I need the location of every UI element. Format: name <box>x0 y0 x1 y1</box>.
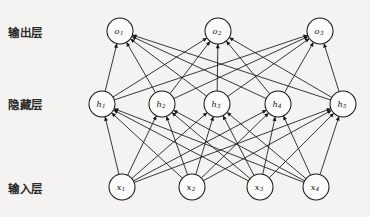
neural-network-figure: 输出层 隐藏层 输入层 o1o2o3h1h2h3h4h5x1x2x3x4 <box>0 0 370 217</box>
edge-h1-to-o2 <box>113 38 207 97</box>
node-o1: o1 <box>107 18 133 44</box>
edge-x4-to-h2 <box>173 110 304 181</box>
node-subscript-h2: 2 <box>161 103 166 109</box>
edge-arrowhead-icon <box>114 44 118 49</box>
node-x3: x3 <box>247 174 273 200</box>
edge-arrowhead-icon <box>130 39 135 43</box>
node-x4: x4 <box>303 174 329 200</box>
edge-h1-to-o3 <box>114 35 307 100</box>
edge-h4-to-o3 <box>284 42 313 92</box>
edge-h2-to-o1 <box>126 42 155 92</box>
node-x1: x1 <box>109 174 135 200</box>
edge-x4-to-h4 <box>283 116 310 175</box>
edge-arrowhead-icon <box>206 41 210 46</box>
edge-h3-to-o2 <box>217 44 218 91</box>
edge-arrowhead-icon <box>216 44 220 48</box>
edge-arrowhead-icon <box>336 116 340 121</box>
node-h5: h5 <box>330 91 356 117</box>
node-subscript-o1: 1 <box>120 30 124 36</box>
edge-h3-to-o3 <box>228 39 310 97</box>
edge-x3-to-h4 <box>263 117 275 175</box>
edge-arrowhead-icon <box>272 117 276 122</box>
node-o3: o3 <box>307 18 333 44</box>
edge-x3-to-h1 <box>114 110 249 181</box>
node-subscript-h3: 3 <box>217 103 221 109</box>
node-subscript-h4: 4 <box>277 103 282 109</box>
node-subscript-o3: 3 <box>320 30 324 36</box>
edge-h4-to-o1 <box>132 36 266 98</box>
edge-arrowhead-icon <box>323 43 327 48</box>
node-x2: x2 <box>179 174 205 200</box>
node-h4: h4 <box>265 91 291 117</box>
edge-h1-to-o1 <box>105 44 117 92</box>
edge-x1-to-h1 <box>105 117 119 175</box>
edge-arrowhead-icon <box>166 116 170 121</box>
edge-h5-to-o3 <box>324 43 339 91</box>
node-subscript-x4: 4 <box>315 186 320 192</box>
node-subscript-x1: 1 <box>122 186 126 192</box>
node-h3: h3 <box>204 91 230 117</box>
node-subscript-o2: 2 <box>217 30 222 36</box>
node-h2: h2 <box>149 91 175 117</box>
node-h1: h1 <box>89 91 115 117</box>
edge-x2-to-h5 <box>203 110 331 180</box>
node-subscript-h1: 1 <box>102 103 106 109</box>
edge-x2-to-h1 <box>112 113 183 178</box>
edge-arrowhead-icon <box>202 38 207 42</box>
node-subscript-x2: 2 <box>191 186 196 192</box>
network-graph: o1o2o3h1h2h3h4h5x1x2x3x4 <box>0 0 370 217</box>
edge-arrowhead-icon <box>104 117 108 122</box>
edge-x3-to-h5 <box>269 113 334 178</box>
node-subscript-x3: 3 <box>260 186 264 192</box>
edge-x1-to-h4 <box>133 110 266 181</box>
edge-x4-to-h5 <box>320 116 339 174</box>
edge-h3-to-o1 <box>130 39 206 96</box>
node-subscript-h5: 5 <box>343 103 347 109</box>
node-o2: o2 <box>205 18 231 44</box>
